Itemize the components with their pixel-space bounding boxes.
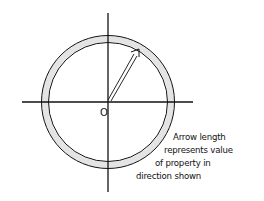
caption-line-3: of property in (155, 158, 211, 168)
caption-line-4: direction shown (136, 171, 201, 181)
origin-label: O (100, 107, 108, 118)
caption-line-1: Arrow length (173, 132, 226, 142)
arrow-shaft-right (111, 56, 137, 101)
polar-property-diagram: O Arrow length represents value of prope… (0, 0, 264, 201)
caption: Arrow length represents value of propert… (136, 132, 233, 181)
caption-line-2: represents value (164, 145, 233, 155)
direction-arrow (108, 49, 139, 101)
arrow-shaft-left (108, 54, 134, 100)
